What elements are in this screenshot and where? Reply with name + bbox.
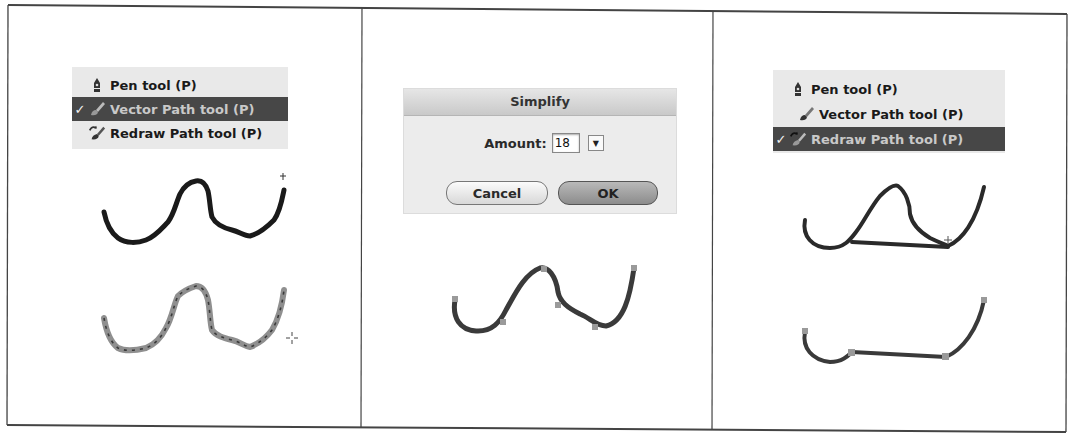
brush-icon [797,105,815,123]
ok-button[interactable]: OK [558,181,658,205]
tool-menu-right: Pen tool (P) Vector Path tool (P) ✓ Redr… [773,70,1005,153]
simplified-path [452,265,637,331]
redrawn-path [802,297,987,362]
tutorial-figure: Pen tool (P) ✓ Vector Path tool (P) Redr… [0,0,1075,438]
raw-freehand-stroke [104,173,286,242]
crosshair-cursor [286,332,298,344]
amount-input[interactable] [552,133,580,153]
menu-item-label: Pen tool (P) [811,82,898,97]
menu-item-label: Redraw Path tool (P) [811,132,963,147]
pen-nib-icon [789,80,807,98]
chevron-down-icon: ▼ [593,139,599,148]
drawing-canvas [0,0,1075,438]
menu-item-pen-tool[interactable]: Pen tool (P) [773,77,1005,101]
cancel-button[interactable]: Cancel [446,181,548,205]
redraw-loop-stroke [804,185,984,248]
vector-path-with-nodes [104,286,284,350]
amount-dropdown-button[interactable]: ▼ [588,135,604,151]
menu-item-label: Vector Path tool (P) [819,107,963,122]
amount-label: Amount: [484,136,546,151]
menu-item-redraw-path-tool[interactable]: ✓ Redraw Path tool (P) [773,127,1005,151]
simplify-dialog: Simplify Amount: ▼ Cancel OK [403,88,677,214]
amount-row: Amount: ▼ [404,133,676,153]
dialog-title: Simplify [404,89,676,116]
menu-item-vector-path-tool[interactable]: Vector Path tool (P) [773,102,1005,126]
redraw-brush-icon [789,130,807,148]
checkmark-icon: ✓ [773,132,789,147]
